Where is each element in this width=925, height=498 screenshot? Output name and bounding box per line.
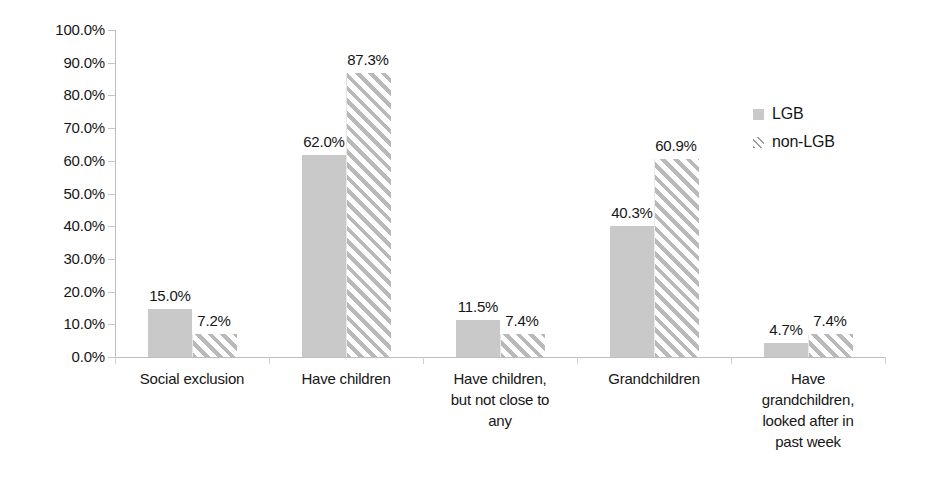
bar-lgb-5 — [764, 343, 808, 358]
bar-value-label: 7.4% — [813, 313, 846, 329]
category-label-line: grandchildren, — [731, 389, 885, 410]
category-label-line: past week — [731, 431, 885, 452]
bar-chart: 100.0%90.0%80.0%70.0%60.0%50.0%40.0%30.0… — [0, 0, 925, 498]
y-axis-tick-label: 10.0% — [17, 316, 105, 331]
x-axis-separator — [269, 357, 270, 364]
chart-legend: LGBnon-LGB — [753, 100, 835, 156]
y-axis-tick — [108, 292, 115, 293]
bar-value-label: 11.5% — [458, 299, 498, 315]
y-axis-tick-label: 40.0% — [17, 218, 105, 233]
bar-non-lgb-1 — [192, 334, 237, 358]
y-axis-tick-label: 20.0% — [17, 284, 105, 299]
x-axis-separator — [423, 357, 424, 364]
x-axis-separator — [115, 357, 116, 364]
bar-lgb-4 — [610, 226, 654, 358]
y-axis-tick — [108, 63, 115, 64]
category-label-line: any — [423, 410, 577, 431]
bar-non-lgb-2 — [346, 73, 391, 358]
x-axis-separator — [731, 357, 732, 364]
bar-value-label: 4.7% — [769, 322, 802, 338]
x-axis-separator — [885, 357, 886, 364]
category-label-line: Grandchildren — [577, 368, 731, 389]
legend-label: non-LGB — [772, 134, 835, 150]
bar-value-label: 15.0% — [149, 288, 191, 304]
bar-value-label: 87.3% — [347, 52, 389, 68]
y-axis-tick-label: 100.0% — [17, 22, 105, 37]
category-label-line: but not close to — [423, 389, 577, 410]
x-axis-separator — [577, 357, 578, 364]
x-axis-category-label: Have children — [269, 368, 423, 389]
category-label-line: Have children — [269, 368, 423, 389]
x-axis-category-label: Social exclusion — [115, 368, 269, 389]
y-axis-tick — [108, 128, 115, 129]
category-label-line: Have children, — [423, 368, 577, 389]
legend-label: LGB — [772, 106, 803, 122]
y-axis-tick-label: 30.0% — [17, 251, 105, 266]
bar-value-label: 60.9% — [655, 138, 697, 154]
bar-value-label: 62.0% — [303, 134, 345, 150]
x-axis-category-label: Grandchildren — [577, 368, 731, 389]
y-axis-tick — [108, 259, 115, 260]
y-axis-tick-label: 50.0% — [17, 186, 105, 201]
legend-swatch-icon — [753, 137, 764, 148]
bar-non-lgb-4 — [654, 159, 699, 358]
y-axis-tick — [108, 95, 115, 96]
plot-area: 15.0%7.2%62.0%87.3%11.5%7.4%40.3%60.9%4.… — [115, 30, 885, 358]
category-label-line: looked after in — [731, 410, 885, 431]
y-axis-tick-label: 90.0% — [17, 55, 105, 70]
legend-swatch-icon — [753, 109, 764, 120]
y-axis-tick-label: 70.0% — [17, 120, 105, 135]
bar-value-label: 7.2% — [197, 313, 230, 329]
bar-lgb-2 — [302, 155, 346, 358]
y-axis-tick — [108, 324, 115, 325]
y-axis-tick — [108, 357, 115, 358]
x-axis-category-label: Havegrandchildren,looked after inpast we… — [731, 368, 885, 452]
y-axis-tick — [108, 226, 115, 227]
y-axis-tick-label: 0.0% — [17, 349, 105, 364]
bar-lgb-1 — [148, 309, 192, 358]
x-axis-category-label: Have children,but not close toany — [423, 368, 577, 431]
bar-non-lgb-3 — [500, 334, 545, 358]
legend-item-non-lgb: non-LGB — [753, 128, 835, 156]
legend-item-lgb: LGB — [753, 100, 835, 128]
y-axis-tick — [108, 30, 115, 31]
y-axis-tick-label: 80.0% — [17, 87, 105, 102]
x-axis-line — [115, 357, 885, 358]
category-label-line: Social exclusion — [115, 368, 269, 389]
category-label-line: Have — [731, 368, 885, 389]
bar-lgb-3 — [456, 320, 500, 358]
bar-value-label: 40.3% — [611, 205, 653, 221]
y-axis-tick — [108, 161, 115, 162]
y-axis-tick-label: 60.0% — [17, 153, 105, 168]
bar-non-lgb-5 — [808, 334, 853, 358]
bar-value-label: 7.4% — [505, 313, 538, 329]
y-axis-tick — [108, 194, 115, 195]
